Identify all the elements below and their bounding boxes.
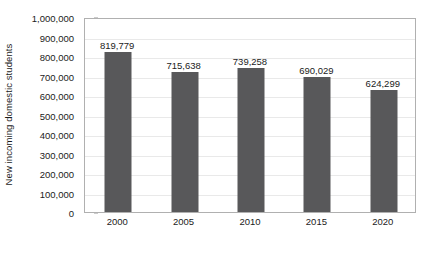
y-tick-label: 700,000 bbox=[40, 71, 74, 82]
y-tick-label: 0 bbox=[69, 208, 74, 219]
plot-area bbox=[84, 18, 416, 213]
x-tick-label: 2015 bbox=[283, 216, 349, 227]
bar[interactable] bbox=[370, 90, 397, 212]
y-tick-label: 300,000 bbox=[40, 149, 74, 160]
bar-group[interactable] bbox=[218, 19, 284, 212]
y-tick-label: 600,000 bbox=[40, 91, 74, 102]
y-axis-tick-labels: 0100,000200,000300,000400,000500,000600,… bbox=[18, 18, 80, 213]
x-tick-label: 2010 bbox=[217, 216, 283, 227]
bar[interactable] bbox=[105, 52, 132, 212]
bar[interactable] bbox=[304, 77, 331, 212]
y-tick-label: 200,000 bbox=[40, 169, 74, 180]
bars-layer bbox=[85, 19, 415, 212]
x-tick-label: 2005 bbox=[150, 216, 216, 227]
y-axis-title: New incoming domestic students bbox=[0, 0, 18, 228]
bar-group[interactable] bbox=[284, 19, 350, 212]
y-tick-label: 900,000 bbox=[40, 32, 74, 43]
y-axis-title-text: New incoming domestic students bbox=[4, 43, 15, 185]
y-tick-label: 1,000,000 bbox=[32, 13, 74, 24]
bar-group[interactable] bbox=[351, 19, 416, 212]
bar-group[interactable] bbox=[85, 19, 151, 212]
x-tick-label: 2000 bbox=[84, 216, 150, 227]
x-tick-label: 2020 bbox=[350, 216, 416, 227]
y-tick-label: 400,000 bbox=[40, 130, 74, 141]
y-tick-label: 800,000 bbox=[40, 52, 74, 63]
bar[interactable] bbox=[171, 72, 198, 212]
bar-group[interactable] bbox=[151, 19, 217, 212]
bar-chart: New incoming domestic students 0100,0002… bbox=[0, 0, 432, 255]
y-tick-label: 100,000 bbox=[40, 188, 74, 199]
x-axis-tick-labels: 20002005201020152020 bbox=[84, 216, 416, 234]
bar[interactable] bbox=[237, 68, 264, 212]
y-tick-label: 500,000 bbox=[40, 110, 74, 121]
